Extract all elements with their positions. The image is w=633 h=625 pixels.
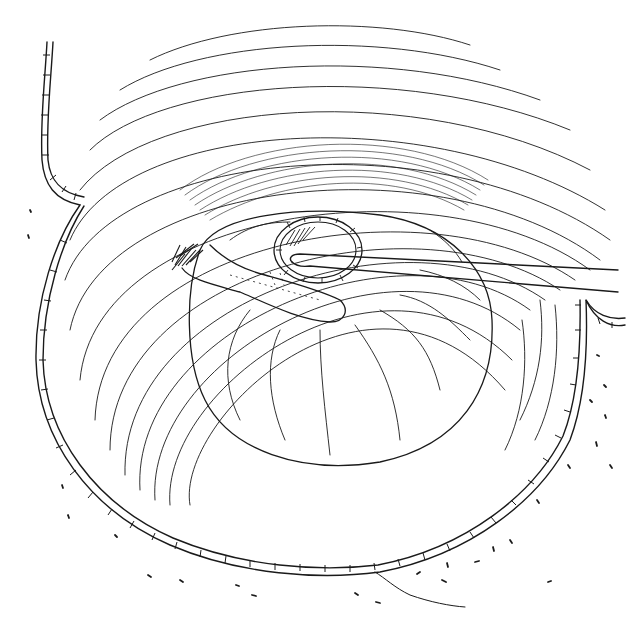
illustration-canvas (0, 0, 633, 625)
rimmed-pocket (274, 217, 362, 283)
fiber-shading (180, 144, 488, 220)
inner-cavity (189, 211, 492, 465)
stipple-marks (28, 210, 612, 603)
crease-line (375, 572, 465, 607)
hair-tuft (172, 244, 203, 270)
outer-epithelial-border (36, 42, 625, 575)
